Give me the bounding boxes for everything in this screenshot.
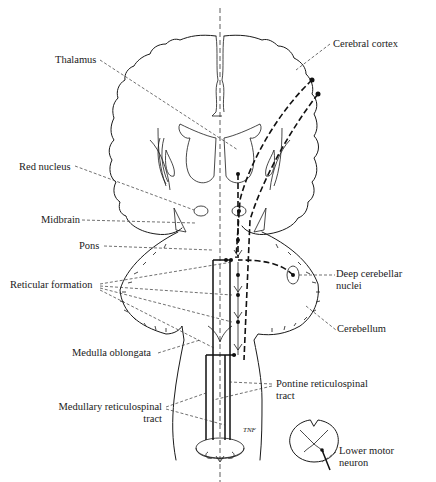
leader-cerebellum (306, 306, 336, 330)
leader-medullary-2 (166, 409, 225, 425)
reticular-dot-5 (236, 320, 240, 324)
pontine-tract-origin-dot (224, 258, 228, 262)
leader-red-nucleus (75, 166, 194, 210)
label-thalamus: Thalamus (55, 54, 96, 66)
leader-reticular-4 (100, 290, 214, 348)
left-sulcus (150, 140, 170, 190)
leader-pontine-1 (230, 382, 272, 384)
medullary-tract-origin-dot (232, 353, 236, 357)
pontine-tract-origin-dot-2 (229, 258, 233, 262)
label-medullary-rst-1: Medullary reticulospinal (38, 401, 162, 413)
artist-initials: TNF (243, 424, 256, 436)
reticular-dot-1 (236, 172, 240, 176)
leader-medullary-1 (166, 393, 206, 407)
spinal-cord-cross-section (290, 420, 339, 470)
leader-midbrain (82, 220, 196, 223)
label-medulla-oblongata: Medulla oblongata (72, 347, 151, 359)
leader-reticular-1 (100, 262, 232, 284)
cerebellum-outline (120, 232, 184, 460)
cerebellar-reticular-path (238, 260, 293, 275)
label-lower-motor-neuron-1: Lower motor (339, 445, 394, 457)
label-medullary-rst-2: tract (38, 413, 162, 425)
label-lower-motor-neuron-2: neuron (339, 457, 368, 469)
label-red-nucleus: Red nucleus (19, 161, 71, 173)
reticular-dot-2 (236, 238, 240, 242)
pontine-tract-box (213, 260, 230, 440)
leader-pontine-2 (213, 386, 272, 400)
red-nucleus-left (194, 206, 208, 216)
reticular-dot-4 (236, 293, 240, 297)
cerebellum-outline-right (254, 232, 318, 460)
thalamus-right (224, 124, 261, 183)
cortex-neuron-dot-1 (310, 78, 315, 83)
leader-reticular-3 (100, 288, 232, 322)
red-nucleus-dot (237, 209, 241, 213)
left-hemisphere-outline (109, 35, 216, 234)
label-pons: Pons (79, 240, 99, 252)
left-midbrain-tab (174, 208, 186, 232)
right-midbrain-tab (254, 208, 266, 232)
label-deep-cerebellar-nuclei-2: nuclei (336, 280, 362, 292)
label-cerebral-cortex: Cerebral cortex (333, 38, 398, 50)
leader-medulla (158, 340, 200, 353)
leader-pons (104, 246, 212, 250)
left-hemisphere-medial (212, 36, 222, 116)
label-pontine-rst-2: tract (276, 390, 295, 402)
label-midbrain: Midbrain (41, 214, 80, 226)
label-cerebellum: Cerebellum (337, 323, 386, 335)
medullary-tract-box (206, 355, 236, 440)
reticular-dot-3 (236, 273, 240, 277)
cortex-neuron-dot-2 (316, 92, 321, 97)
thalamus-left (179, 124, 216, 183)
label-pontine-rst-1: Pontine reticulospinal (276, 378, 368, 390)
label-reticular-formation: Reticular formation (10, 279, 93, 291)
leader-cerebral-cortex (296, 44, 330, 70)
right-hemisphere-medial (222, 36, 224, 112)
label-deep-cerebellar-nuclei-1: Deep cerebellar (336, 268, 402, 280)
